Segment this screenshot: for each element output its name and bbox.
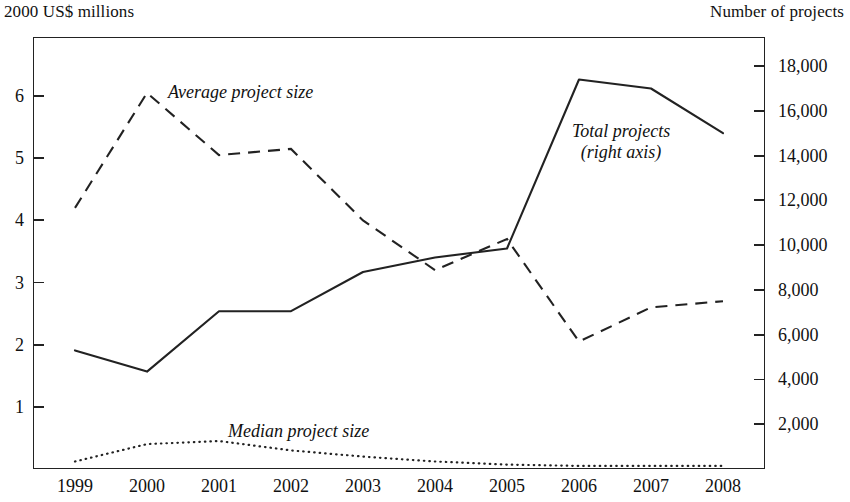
chart-figure: 2000 US$ millions Number of projects 123… — [0, 0, 850, 502]
right-axis-title: Number of projects — [710, 2, 844, 22]
right-tick-mark — [754, 379, 765, 381]
left-tick-label: 4 — [0, 210, 24, 231]
x-tick-label: 2002 — [273, 476, 309, 497]
annotation-total-projects-line2: (right axis) — [572, 142, 670, 163]
x-tick-label: 2005 — [489, 476, 525, 497]
left-tick-label: 3 — [0, 272, 24, 293]
left-tick-mark — [33, 344, 44, 346]
right-tick-label: 2,000 — [778, 414, 819, 435]
right-tick-mark — [754, 155, 765, 157]
left-tick-mark — [33, 157, 44, 159]
x-tick-label: 2008 — [705, 476, 741, 497]
right-tick-mark — [754, 110, 765, 112]
x-tick-label: 2001 — [201, 476, 237, 497]
left-tick-mark — [33, 406, 44, 408]
series-line-median-project-size — [75, 441, 723, 466]
x-tick-label: 2004 — [417, 476, 453, 497]
left-tick-mark — [33, 282, 44, 284]
right-tick-label: 8,000 — [778, 279, 819, 300]
x-tick-label: 2006 — [561, 476, 597, 497]
left-tick-label: 6 — [0, 86, 24, 107]
right-tick-label: 10,000 — [778, 235, 828, 256]
right-tick-label: 14,000 — [778, 145, 828, 166]
right-tick-mark — [754, 289, 765, 291]
right-tick-label: 18,000 — [778, 56, 828, 77]
annotation-total-projects-line1: Total projects — [572, 121, 670, 142]
left-tick-label: 1 — [0, 396, 24, 417]
right-tick-mark — [754, 423, 765, 425]
x-tick-label: 2007 — [633, 476, 669, 497]
right-tick-mark — [754, 199, 765, 201]
right-tick-label: 16,000 — [778, 100, 828, 121]
x-tick-label: 2000 — [129, 476, 165, 497]
x-tick-label: 2003 — [345, 476, 381, 497]
left-tick-mark — [33, 95, 44, 97]
right-tick-mark — [754, 65, 765, 67]
left-tick-label: 5 — [0, 148, 24, 169]
right-tick-mark — [754, 334, 765, 336]
left-tick-mark — [33, 219, 44, 221]
x-tick-label: 1999 — [57, 476, 93, 497]
right-tick-label: 4,000 — [778, 369, 819, 390]
right-tick-label: 12,000 — [778, 190, 828, 211]
right-tick-mark — [754, 244, 765, 246]
right-tick-label: 6,000 — [778, 324, 819, 345]
left-tick-label: 2 — [0, 334, 24, 355]
left-axis-title: 2000 US$ millions — [4, 2, 134, 22]
plot-lines — [33, 37, 765, 469]
annotation-median-project-size: Median project size — [228, 421, 369, 442]
annotation-total-projects: Total projects (right axis) — [572, 121, 670, 162]
annotation-average-project-size: Average project size — [168, 82, 313, 103]
